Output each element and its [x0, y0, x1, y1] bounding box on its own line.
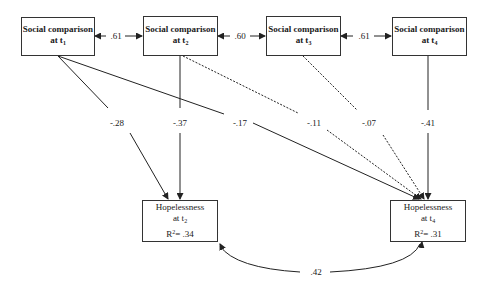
path-sc2-h4-upper [183, 56, 298, 113]
node-r-squared: R2= .34 [166, 227, 194, 240]
corr-label-sc1-sc2: .61 [108, 31, 123, 41]
corr-label-h2-h4: .42 [308, 267, 323, 277]
path-label-sc1-h2: -.28 [108, 118, 126, 128]
path-sc1-h2-lower [130, 133, 168, 199]
path-label-sc1-h4: -.17 [231, 118, 249, 128]
path-sc3-h4-upper [303, 56, 357, 110]
node-time: at t4 [422, 35, 438, 49]
node-time: at t1 [50, 35, 66, 49]
resid-curve-right [330, 244, 420, 272]
node-label: Social comparison [394, 24, 464, 35]
node-label: Social comparison [23, 24, 93, 35]
corr-label-sc2-sc3: .60 [232, 31, 247, 41]
path-label-sc4-h4: -.41 [419, 118, 437, 128]
node-label: Hopelessness [404, 202, 453, 213]
corr-label-sc3-sc4: .61 [356, 31, 371, 41]
resid-curve-right-tip [421, 242, 422, 248]
path-sc1-h4-upper [58, 56, 224, 114]
node-social-comparison-t2: Social comparison at t2 [143, 16, 218, 56]
node-social-comparison-t3: Social comparison at t3 [266, 16, 341, 56]
resid-curve-left [220, 246, 300, 272]
node-social-comparison-t1: Social comparison at t1 [21, 17, 95, 56]
node-hopelessness-t2: Hopelessness at t2 R2= .34 [142, 200, 218, 242]
node-time: at t2 [173, 213, 187, 227]
node-time: at t2 [173, 35, 189, 49]
path-label-sc2-h2: -.37 [171, 118, 189, 128]
path-sc1-h4-lower [253, 123, 419, 199]
node-r-squared: R2= .31 [414, 227, 442, 240]
path-sc2-h4-lower [327, 130, 421, 199]
node-label: Social comparison [268, 24, 338, 35]
node-time: at t3 [296, 35, 312, 49]
node-time: at t4 [421, 213, 435, 227]
node-label: Social comparison [145, 24, 215, 35]
path-label-sc2-h4: -.11 [305, 118, 323, 128]
path-sc1-h2-upper [58, 56, 108, 108]
path-sc3-h4-lower [383, 135, 424, 199]
node-social-comparison-t4: Social comparison at t4 [392, 17, 467, 56]
path-label-sc3-h4: -.07 [360, 118, 378, 128]
node-hopelessness-t4: Hopelessness at t4 R2= .31 [390, 200, 466, 242]
node-label: Hopelessness [156, 202, 205, 213]
